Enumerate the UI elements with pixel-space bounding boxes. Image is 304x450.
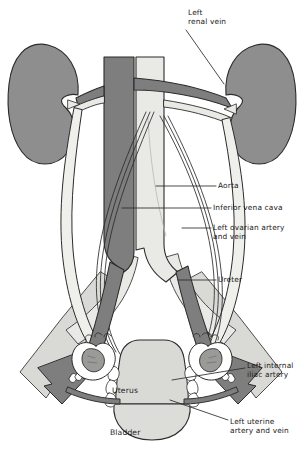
label-left-internal-iliac-artery: Left internal iliac artery <box>247 361 294 380</box>
ovary-left <box>82 349 105 372</box>
label-left-renal-vein: Left renal vein <box>188 8 226 27</box>
label-left-uterine-artery-and-vein: Left uterine artery and vein <box>230 417 289 436</box>
ovary-right <box>200 349 223 372</box>
label-bladder: Bladder <box>110 428 140 437</box>
label-inferior-vena-cava: Inferior vena cava <box>213 203 283 212</box>
inferior-vena-cava <box>104 57 134 272</box>
label-aorta: Aorta <box>218 181 239 190</box>
label-left-ovarian-artery-and-vein: Left ovarian artery and vein <box>213 223 285 242</box>
label-ureter: Ureter <box>218 275 242 284</box>
label-uterus: Uterus <box>112 386 138 395</box>
